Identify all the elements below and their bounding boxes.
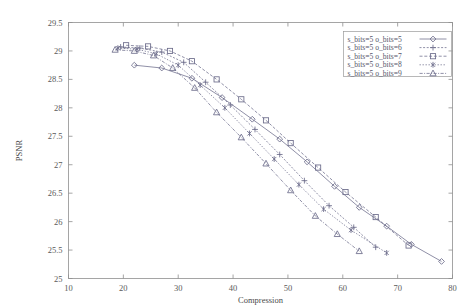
series-line: [121, 47, 376, 247]
x-tick-label: 50: [284, 283, 293, 293]
x-tick-label: 70: [393, 283, 402, 293]
y-axis-label: PSNR: [14, 140, 24, 162]
y-tick-label: 26.5: [48, 188, 63, 198]
y-tick-label: 29.5: [48, 18, 63, 28]
y-tick-label: 28: [54, 103, 63, 113]
data-point-triangle: [170, 65, 176, 71]
x-tick-label: 30: [174, 283, 183, 293]
x-tick-label: 60: [339, 283, 348, 293]
y-tick-label: 25.5: [48, 245, 63, 255]
y-tick-label: 28.5: [48, 74, 63, 84]
chart-figure: 10203040506070802525.52626.52727.52828.5…: [0, 0, 469, 307]
legend-label: s_bits=5 o_bits=9: [348, 69, 403, 78]
y-tick-label: 27: [54, 160, 63, 170]
y-tick-label: 29: [54, 46, 63, 56]
series-line: [115, 50, 359, 251]
series-0: [131, 62, 444, 264]
series-line: [134, 65, 441, 261]
series-1: [118, 44, 379, 250]
x-axis-label: Compression: [238, 295, 284, 305]
x-tick-label: 80: [448, 283, 457, 293]
legend: s_bits=5 o_bits=5s_bits=5 o_bits=6s_bits…: [344, 32, 452, 79]
y-tick-label: 25: [54, 274, 63, 284]
x-tick-label: 20: [119, 283, 128, 293]
series-4: [112, 47, 362, 254]
data-point-triangle: [430, 70, 436, 76]
data-point-diamond: [439, 259, 445, 265]
data-point-triangle: [263, 160, 269, 166]
plot-canvas: 10203040506070802525.52626.52727.52828.5…: [0, 0, 469, 307]
x-tick-label: 10: [64, 283, 73, 293]
y-tick-label: 26: [54, 217, 63, 227]
y-tick-label: 27.5: [48, 131, 63, 141]
series-line: [118, 48, 387, 253]
x-tick-label: 40: [229, 283, 238, 293]
